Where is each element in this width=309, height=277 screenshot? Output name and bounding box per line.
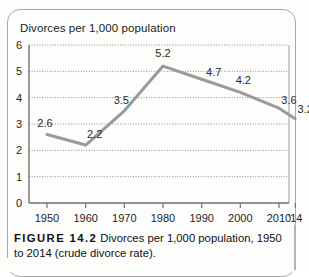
y-tick-label: 4 [16, 92, 22, 104]
y-tick-label: 3 [16, 118, 22, 130]
x-tick-label: 1950 [35, 212, 59, 224]
y-tick-label: 1 [16, 171, 22, 183]
data-point-label: 2.6 [37, 117, 52, 129]
line-chart-svg: 01234561950196019701980199020002010'142.… [0, 0, 309, 232]
chart-plot: 01234561950196019701980199020002010'142.… [0, 0, 309, 232]
data-point-label: 3.5 [114, 94, 129, 106]
data-point-label: 4.7 [206, 66, 221, 78]
figure-caption-label: FIGURE 14.2 [14, 232, 97, 244]
x-tick-label: 1970 [112, 212, 136, 224]
data-line [47, 66, 295, 145]
x-tick-label: 1990 [189, 212, 213, 224]
data-point-label: 2.2 [87, 128, 102, 140]
x-tick-label: 1960 [73, 212, 97, 224]
x-tick-label: '14 [288, 212, 302, 224]
y-tick-label: 0 [16, 197, 22, 209]
x-tick-label: 1980 [151, 212, 175, 224]
data-point-label: 5.2 [155, 47, 170, 59]
data-point-label: 3.2 [298, 103, 309, 115]
y-tick-label: 5 [16, 65, 22, 77]
figure-caption: FIGURE 14.2 Divorces per 1,000 populatio… [14, 231, 294, 260]
y-tick-label: 6 [16, 39, 22, 51]
data-point-label: 4.2 [236, 74, 251, 86]
data-point-label: 3.6 [281, 94, 296, 106]
x-tick-label: 2000 [228, 212, 252, 224]
y-tick-label: 2 [16, 144, 22, 156]
